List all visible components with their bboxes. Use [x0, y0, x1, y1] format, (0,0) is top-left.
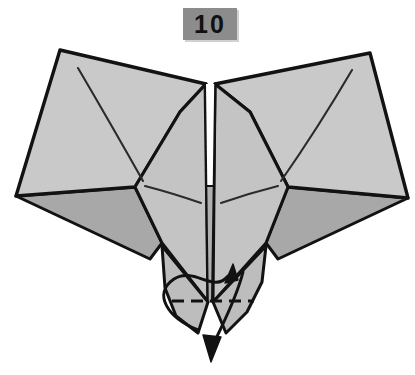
step-number-label: 10	[194, 12, 226, 37]
fold-down-arrowhead-icon	[203, 335, 221, 362]
origami-diagram: 10	[0, 0, 415, 375]
origami-figure	[0, 0, 415, 375]
step-number-badge: 10	[183, 8, 237, 40]
right-wing-lower-panel	[266, 187, 408, 259]
